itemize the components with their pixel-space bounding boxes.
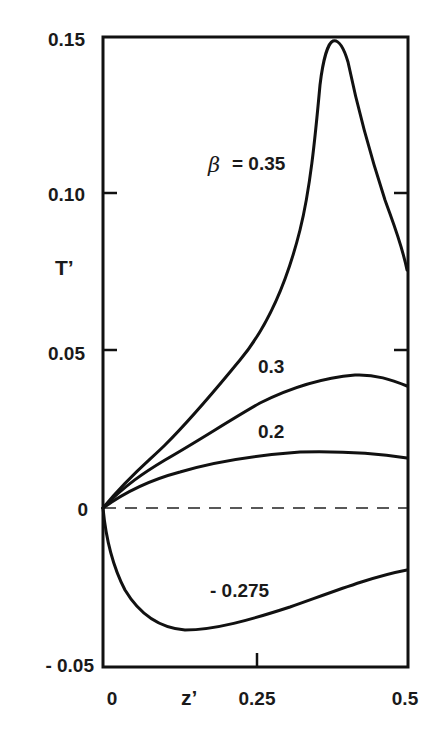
x-tick-label-0.5: 0.5: [392, 688, 419, 709]
y-tick-label-0.10: 0.10: [48, 184, 85, 205]
curve-label-0.2: 0.2: [258, 421, 284, 442]
y-axis-ticks: [103, 193, 408, 350]
beta-symbol: β: [207, 153, 220, 177]
y-tick-label-0.05: 0.05: [48, 343, 85, 364]
x-tick-label-0.25: 0.25: [239, 688, 276, 709]
y-tick-label-neg-0.05: - 0.05: [45, 655, 94, 676]
x-tick-label-0: 0: [107, 688, 118, 709]
curve-label-0.35: = 0.35: [232, 153, 286, 174]
curve-label-neg-0.275: - 0.275: [210, 580, 270, 601]
curve-beta-neg-0.275: [103, 508, 407, 630]
y-axis-title: T’: [55, 256, 74, 279]
x-axis-title: z’: [181, 686, 197, 709]
y-tick-label-0: 0: [77, 499, 88, 520]
curve-label-0.3: 0.3: [258, 356, 284, 377]
y-tick-label-0.15: 0.15: [48, 29, 85, 50]
curve-beta-0.35: [103, 41, 407, 508]
plot-frame: [103, 37, 408, 667]
curve-beta-0.3: [103, 375, 407, 508]
line-chart: 0.15 0.10 0.05 0 - 0.05 0 0.25 0.5 T’ z’…: [0, 0, 443, 729]
